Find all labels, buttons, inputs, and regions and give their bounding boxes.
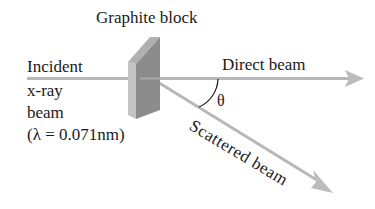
graphite-block-label: Graphite block — [96, 8, 198, 27]
direct-beam-label: Direct beam — [222, 55, 306, 74]
theta-angle-arc — [199, 79, 218, 107]
incident-label: Incident — [27, 57, 83, 76]
theta-label: θ — [217, 91, 225, 110]
xray-label: x-ray — [27, 81, 63, 100]
wavelength-label: (λ = 0.071nm) — [27, 125, 125, 144]
scattered-beam-arrowhead-icon — [311, 170, 333, 193]
beam-label: beam — [27, 103, 64, 122]
graphite-block-side — [128, 62, 136, 119]
scattered-beam-line — [152, 79, 320, 183]
